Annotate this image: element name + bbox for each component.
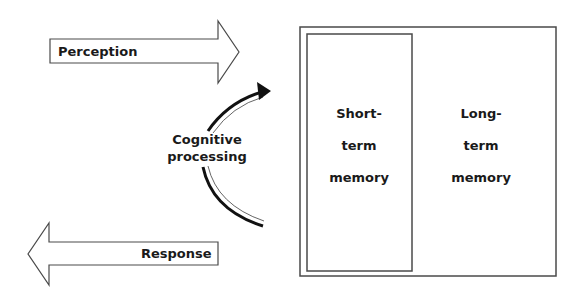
short-term-line1: Short-: [336, 106, 382, 121]
cognitive-processing-label-line2: processing: [167, 149, 247, 164]
short-term-line3: memory: [329, 170, 389, 185]
response-label: Response: [141, 246, 212, 261]
perception-label: Perception: [58, 44, 137, 59]
long-term-line2: term: [464, 138, 499, 153]
memory-outer-box: [300, 27, 556, 276]
long-term-line3: memory: [451, 170, 511, 185]
cognitive-processing-label-line1: Cognitive: [172, 132, 241, 147]
long-term-line1: Long-: [460, 106, 501, 121]
short-term-line2: term: [342, 138, 377, 153]
